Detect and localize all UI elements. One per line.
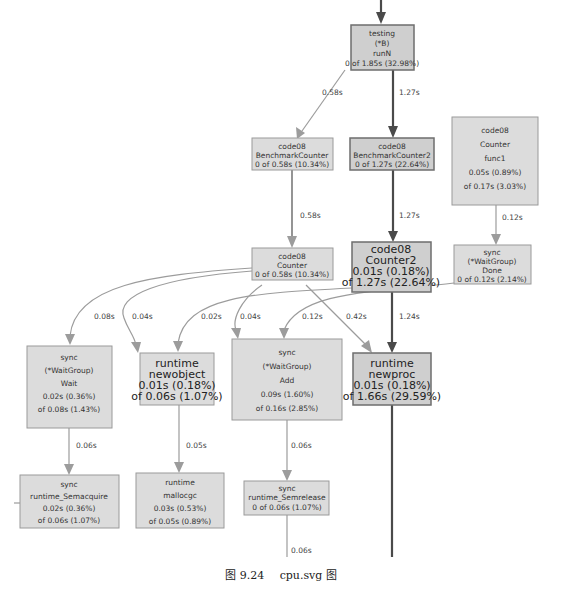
node-runtime-semrelease[interactable]: sync runtime_Semrelease 0 of 0.06s (1.07…	[244, 481, 329, 515]
node-line: 0.02s (0.36%)	[43, 504, 96, 513]
node-line: sync	[60, 480, 77, 489]
node-runtime-mallocgc[interactable]: runtime mallocgc 0.03s (0.53%) of 0.05s …	[136, 473, 224, 528]
node-runtime-semacquire[interactable]: sync runtime_Semacquire 0.02s (0.36%) of…	[20, 475, 119, 528]
edge-counter2-to-newproc: 1.24s	[387, 290, 420, 353]
node-line: BenchmarkCounter2	[353, 151, 431, 160]
edge-label: 1.27s	[399, 211, 420, 220]
edge-add-to-semrelease: 0.06s	[282, 420, 312, 481]
node-line: code08	[481, 126, 509, 135]
node-line: Add	[280, 376, 295, 385]
node-testing-runN[interactable]: testing (*B) runN 0 of 1.85s (32.98%)	[345, 25, 419, 70]
edge-label: 0.06s	[291, 546, 312, 555]
edge-label: 0.05s	[186, 441, 207, 450]
node-line: code08	[278, 252, 306, 261]
edge-label: 1.27s	[399, 88, 420, 97]
edge-label: 0.58s	[300, 211, 321, 220]
node-line: of 1.66s (29.59%)	[343, 390, 441, 403]
edge-counter-to-add: 0.04s	[231, 285, 262, 339]
node-line: runN	[373, 49, 391, 58]
node-line: of 0.06s (1.07%)	[131, 390, 222, 403]
node-line: 0 of 0.58s (10.34%)	[255, 270, 329, 279]
edge-newobject-to-mallocgc: 0.05s	[174, 405, 207, 473]
node-line: 0 of 0.12s (2.14%)	[457, 275, 527, 284]
figure-caption: 图 9.24 cpu.svg 图	[0, 566, 562, 582]
edge-into-runN	[376, 0, 386, 24]
node-line: (*WaitGroup)	[468, 257, 517, 266]
edge-counter-to-wait: 0.08s	[65, 268, 252, 345]
edge-runN-to-benchmarkcounter: 0.58s	[296, 70, 345, 139]
node-line: 0 of 1.27s (22.64%)	[355, 160, 429, 169]
node-line: 0 of 1.85s (32.98%)	[345, 59, 419, 68]
node-line: Counter	[277, 261, 308, 270]
edge-label: 0.04s	[240, 312, 261, 321]
node-line: code08	[278, 142, 306, 151]
node-line: of 1.27s (22.64%)	[342, 276, 440, 289]
node-line: runtime	[165, 478, 195, 487]
node-line: sync	[60, 353, 77, 362]
node-line: of 0.08s (1.43%)	[38, 405, 100, 414]
node-line: sync	[483, 248, 500, 257]
node-line: 0.02s (0.36%)	[43, 392, 96, 401]
node-counter[interactable]: code08 Counter 0 of 0.58s (10.34%)	[252, 248, 333, 280]
node-line: (*WaitGroup)	[45, 366, 94, 375]
node-line: of 0.16s (2.85%)	[256, 404, 318, 413]
edge-label: 0.42s	[346, 312, 367, 321]
node-line: of 0.06s (1.07%)	[38, 516, 100, 525]
node-line: 0.03s (0.53%)	[154, 504, 207, 513]
edge-func1-to-done: 0.12s	[491, 205, 523, 245]
figure-title: cpu.svg 图	[280, 569, 337, 582]
node-counter-func1[interactable]: code08 Counter func1 0.05s (0.89%) of 0.…	[452, 117, 538, 205]
figure-number: 图 9.24	[225, 569, 264, 582]
edge-label: 0.12s	[302, 312, 323, 321]
edge-label: 0.04s	[132, 312, 153, 321]
edge-label: 0.06s	[291, 441, 312, 450]
node-line: sync	[278, 484, 295, 493]
node-waitgroup-add[interactable]: sync (*WaitGroup) Add 0.09s (1.60%) of 0…	[232, 339, 342, 420]
node-benchmarkcounter2[interactable]: code08 BenchmarkCounter2 0 of 1.27s (22.…	[350, 138, 434, 170]
node-line: (*B)	[375, 39, 390, 48]
node-line: (*WaitGroup)	[263, 362, 312, 371]
edge-label: 0.12s	[502, 213, 523, 222]
node-runtime-newobject[interactable]: runtime newobject 0.01s (0.18%) of 0.06s…	[131, 353, 222, 405]
node-line: of 0.17s (3.03%)	[464, 182, 526, 191]
node-line: BenchmarkCounter	[256, 151, 330, 160]
edge-label: 0.02s	[201, 312, 222, 321]
call-graph: 0.58s 1.27s 0.58s 1.27s 0.12s 0.08s 0.04…	[0, 0, 562, 592]
node-line: runtime_Semrelease	[248, 493, 326, 502]
node-line: of 0.05s (0.89%)	[149, 517, 211, 526]
edge-label: 1.24s	[399, 312, 420, 321]
edge-label: 0.06s	[76, 441, 97, 450]
edge-label: 0.08s	[94, 312, 115, 321]
node-line: Wait	[61, 379, 78, 388]
node-line: 0.09s (1.60%)	[261, 390, 314, 399]
node-line: sync	[278, 348, 295, 357]
node-waitgroup-wait[interactable]: sync (*WaitGroup) Wait 0.02s (0.36%) of …	[27, 346, 112, 428]
node-waitgroup-done[interactable]: sync (*WaitGroup) Done 0 of 0.12s (2.14%…	[454, 245, 531, 284]
node-line: Done	[482, 266, 502, 275]
node-line: testing	[369, 29, 395, 38]
edge-runN-to-benchmarkcounter2: 1.27s	[388, 70, 420, 138]
node-line: Counter	[480, 140, 511, 149]
node-line: runtime_Semacquire	[30, 492, 108, 501]
edge-label: 0.58s	[322, 88, 343, 97]
edge-wait-to-semacquire: 0.06s	[64, 428, 97, 475]
node-line: 0 of 0.58s (10.34%)	[255, 160, 329, 169]
node-line: 0 of 0.06s (1.07%)	[252, 503, 322, 512]
edge-benchmarkcounter2-to-counter2: 1.27s	[388, 170, 420, 242]
node-counter2[interactable]: code08 Counter2 0.01s (0.18%) of 1.27s (…	[342, 242, 440, 292]
node-line: 0.05s (0.89%)	[469, 168, 522, 177]
node-line: mallocgc	[163, 491, 197, 500]
node-benchmarkcounter[interactable]: code08 BenchmarkCounter 0 of 0.58s (10.3…	[252, 138, 333, 170]
node-line: code08	[378, 142, 406, 151]
edge-semrelease-out: 0.06s	[287, 515, 312, 557]
node-runtime-newproc[interactable]: runtime newproc 0.01s (0.18%) of 1.66s (…	[343, 353, 441, 405]
edge-benchmarkcounter-to-counter: 0.58s	[287, 170, 321, 248]
node-line: func1	[484, 154, 505, 163]
